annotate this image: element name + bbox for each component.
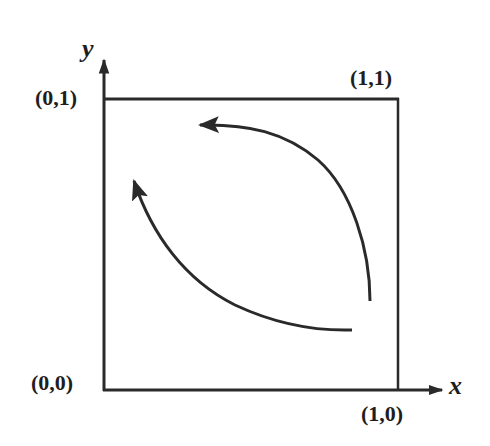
outer-arc-arrow xyxy=(200,125,370,301)
corner-label-top-left: (0,1) xyxy=(35,87,77,109)
corner-label-bottom-right: (1,0) xyxy=(361,403,403,425)
corner-label-top-right: (1,1) xyxy=(350,67,392,89)
inner-arc-arrow xyxy=(134,181,352,330)
y-axis-label: y xyxy=(82,36,94,62)
x-axis-label: x xyxy=(449,373,462,399)
unit-square-diagram xyxy=(0,0,490,446)
corner-label-origin: (0,0) xyxy=(31,372,73,394)
